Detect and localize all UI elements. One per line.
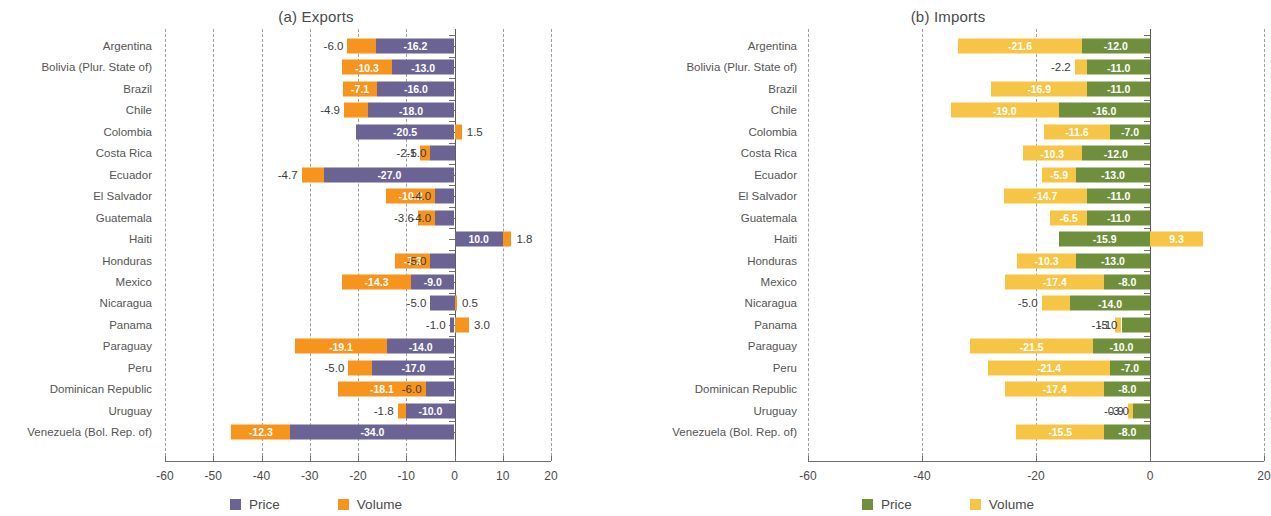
bar-value-label: -34.0 xyxy=(360,427,384,438)
price-segment: -13.0 xyxy=(1076,253,1150,268)
category-label: Peru xyxy=(773,362,797,374)
x-axis-tick xyxy=(808,456,809,461)
price-segment: -8.0 xyxy=(1104,382,1150,397)
bar-value-label: -8.0 xyxy=(1118,427,1136,438)
price-segment xyxy=(1122,317,1151,332)
gridline xyxy=(1264,29,1265,461)
row-tick xyxy=(449,271,455,272)
category-label: Guatemala xyxy=(741,212,797,224)
volume-segment: -10.3 xyxy=(1017,253,1076,268)
category-label: Paraguay xyxy=(103,340,152,352)
x-axis-tick xyxy=(406,456,407,461)
bar-value-label: -27.0 xyxy=(377,169,401,180)
row-tick xyxy=(449,57,455,58)
x-axis-tick xyxy=(1264,456,1265,461)
exports-category-labels: ArgentinaBolivia (Plur. State of)BrazilC… xyxy=(0,0,152,516)
row-tick xyxy=(449,207,455,208)
price-segment: -11.0 xyxy=(1087,189,1150,204)
price-segment: -8.0 xyxy=(1104,425,1150,440)
category-label: Bolivia (Plur. State of) xyxy=(41,61,152,73)
bar-value-label-outside: -2.2 xyxy=(1051,61,1071,73)
bar-value-label: -21.4 xyxy=(1037,363,1061,374)
row-tick xyxy=(1144,143,1150,144)
bar-value-label-outside: 0.5 xyxy=(462,297,478,309)
price-segment: -14.0 xyxy=(387,339,455,354)
volume-segment: -5.9 xyxy=(1042,167,1076,182)
bar-value-label: -14.0 xyxy=(1098,298,1122,309)
row-tick xyxy=(1144,100,1150,101)
x-axis-tick xyxy=(455,456,456,461)
bar-value-label-outside: -5.0 xyxy=(1018,297,1038,309)
volume-segment: -17.4 xyxy=(1005,274,1104,289)
price-segment: -14.0 xyxy=(1070,296,1150,311)
category-label: Nicaragua xyxy=(745,297,797,309)
bar-value-label: -14.0 xyxy=(409,341,433,352)
legend-label: Volume xyxy=(357,497,402,512)
bar-value-label: -18.0 xyxy=(399,105,423,116)
bar-value-label: -11.0 xyxy=(1107,84,1130,95)
category-label: Dominican Republic xyxy=(695,383,797,395)
bar-value-label: -13.0 xyxy=(411,62,435,73)
price-segment: -16.0 xyxy=(377,81,454,96)
category-label: Guatemala xyxy=(96,212,152,224)
x-axis-tick xyxy=(503,456,504,461)
price-segment: -11.0 xyxy=(1087,81,1150,96)
category-label: Uruguay xyxy=(109,405,152,417)
row-tick xyxy=(449,121,455,122)
bar-value-label: -19.1 xyxy=(329,341,353,352)
category-label: Colombia xyxy=(748,126,797,138)
row-tick xyxy=(1144,121,1150,122)
category-label: Costa Rica xyxy=(96,147,152,159)
volume-segment xyxy=(455,317,469,332)
volume-segment: -11.6 xyxy=(1044,124,1110,139)
category-label: Ecuador xyxy=(109,169,152,181)
legend-item-price: Price xyxy=(862,497,912,512)
row-tick xyxy=(1144,250,1150,251)
x-axis-tick-label: -20 xyxy=(1027,469,1044,483)
bar-value-label: -16.2 xyxy=(403,41,427,52)
volume-segment: -16.9 xyxy=(991,81,1087,96)
row-tick xyxy=(1144,400,1150,401)
category-label: Honduras xyxy=(747,255,797,267)
bar-value-label: -12.3 xyxy=(249,427,273,438)
row-tick xyxy=(449,250,455,251)
x-axis-tick xyxy=(262,456,263,461)
row-tick xyxy=(1144,271,1150,272)
bar-value-label: -10.3 xyxy=(1035,255,1059,266)
bar-value-label: -17.4 xyxy=(1043,384,1067,395)
legend-swatch-icon xyxy=(862,499,873,510)
price-segment: -10.0 xyxy=(406,403,454,418)
bar-value-label: -10.0 xyxy=(1110,341,1134,352)
price-segment xyxy=(435,210,454,225)
row-tick xyxy=(449,35,455,36)
exports-legend: PriceVolume xyxy=(0,497,632,512)
row-tick xyxy=(449,421,455,422)
x-axis-tick-label: 10 xyxy=(496,469,509,483)
bar-value-label-outside: -6.0 xyxy=(402,383,422,395)
row-tick xyxy=(449,78,455,79)
bar-value-label: -14.3 xyxy=(365,277,389,288)
bar-value-label: -19.0 xyxy=(993,105,1017,116)
volume-segment: -10.3 xyxy=(1023,146,1082,161)
category-label: Mexico xyxy=(761,276,797,288)
bar-value-label: -10.3 xyxy=(355,62,379,73)
bar-value-label-outside: -1.0 xyxy=(426,319,446,331)
category-label: Ecuador xyxy=(754,169,797,181)
bar-value-label-outside: -5.0 xyxy=(407,297,427,309)
category-label: Mexico xyxy=(116,276,152,288)
x-axis-tick-label: -40 xyxy=(913,469,930,483)
price-segment: -12.0 xyxy=(1082,39,1150,54)
bar-value-label-outside: -4.9 xyxy=(320,104,340,116)
volume-segment xyxy=(347,39,376,54)
category-label: Brazil xyxy=(123,83,152,95)
bar-value-label: -15.5 xyxy=(1048,427,1072,438)
bar-value-label: -21.6 xyxy=(1008,41,1032,52)
volume-segment: -21.4 xyxy=(988,360,1110,375)
x-axis-tick-label: -30 xyxy=(301,469,318,483)
category-label: Brazil xyxy=(768,83,797,95)
x-axis-tick-label: -60 xyxy=(156,469,173,483)
bar-value-label: -7.0 xyxy=(1121,363,1139,374)
legend-label: Price xyxy=(249,497,280,512)
bar-value-label: -14.7 xyxy=(1033,191,1057,202)
row-tick xyxy=(449,357,455,358)
